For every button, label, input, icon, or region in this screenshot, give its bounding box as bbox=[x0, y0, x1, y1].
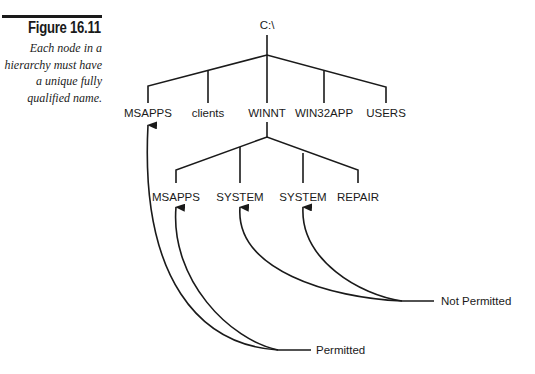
node-win32app: WIN32APP bbox=[295, 107, 353, 119]
level2-branch bbox=[176, 137, 358, 183]
permitted-label: Permitted bbox=[316, 344, 365, 356]
node-winnt-repair: REPAIR bbox=[337, 191, 379, 203]
node-root: C:\ bbox=[260, 19, 276, 31]
node-winnt-system-1: SYSTEM bbox=[216, 191, 263, 203]
node-clients: clients bbox=[192, 107, 225, 119]
node-winnt: WINNT bbox=[248, 107, 286, 119]
hierarchy-diagram: C:\ MSAPPS clients WINNT WIN32APP USERS … bbox=[0, 0, 535, 374]
node-winnt-system-2: SYSTEM bbox=[279, 191, 326, 203]
node-winnt-msapps: MSAPPS bbox=[152, 191, 200, 203]
node-msapps: MSAPPS bbox=[124, 107, 172, 119]
not-permitted-arrow-system-1 bbox=[240, 207, 434, 301]
not-permitted-label: Not Permitted bbox=[441, 295, 511, 307]
permitted-arrow-winnt-msapps bbox=[176, 207, 278, 350]
node-users: USERS bbox=[366, 107, 406, 119]
permitted-arrow-msapps bbox=[147, 125, 311, 350]
